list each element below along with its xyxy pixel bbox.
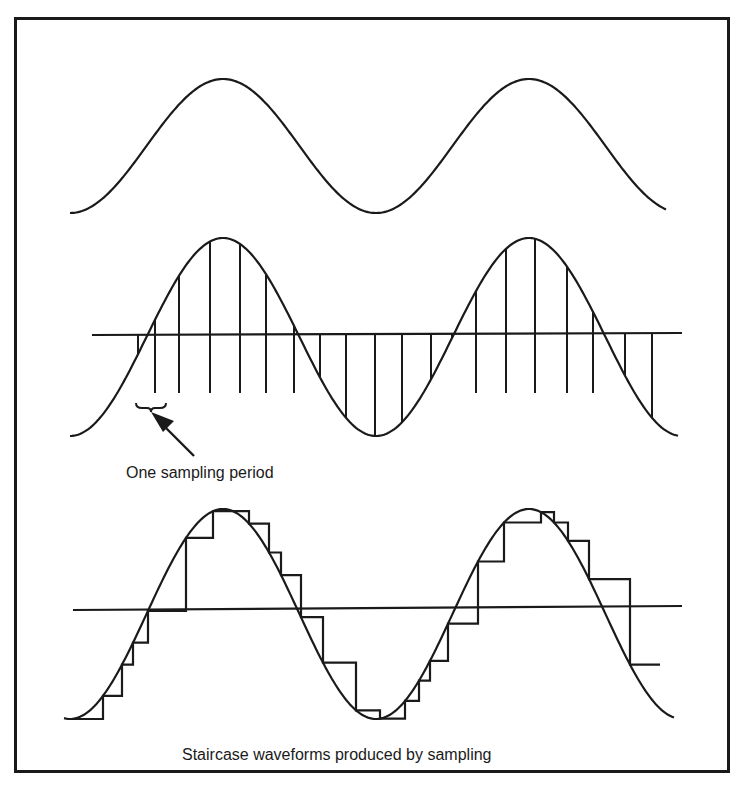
figure-border	[14, 17, 730, 773]
sampling-period-label: One sampling period	[126, 464, 274, 482]
figure-caption: Staircase waveforms produced by sampling	[182, 746, 491, 764]
